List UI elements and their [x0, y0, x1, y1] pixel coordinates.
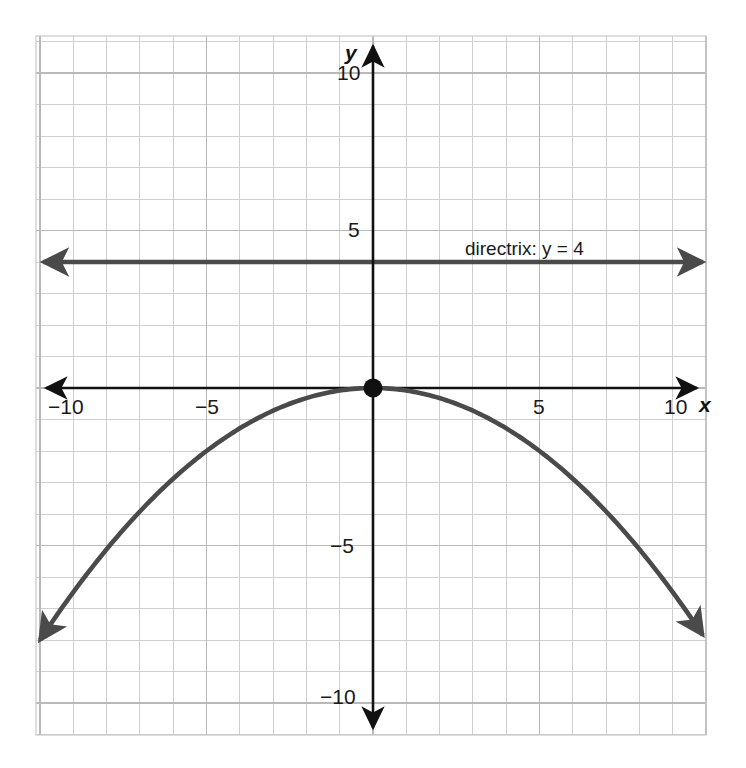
y-tick-label-10: 10: [337, 62, 360, 83]
y-axis-name: y: [345, 42, 357, 63]
x-tick-label-neg10: −10: [48, 396, 84, 417]
y-tick-label-5: 5: [348, 219, 360, 240]
x-tick-label-5: 5: [533, 396, 545, 417]
y-tick-label-neg10: −10: [320, 686, 356, 707]
x-tick-label-neg5: −5: [195, 396, 219, 417]
vertex-point: [364, 379, 383, 398]
coordinate-plane: [0, 0, 746, 768]
directrix-label: directrix: y = 4: [465, 239, 584, 258]
x-axis-name: x: [699, 394, 711, 415]
x-tick-label-10: 10: [664, 396, 687, 417]
graph-figure: −10 −5 5 10 10 5 −5 −10 y x directrix: y…: [0, 0, 746, 768]
y-tick-label-neg5: −5: [330, 535, 354, 556]
